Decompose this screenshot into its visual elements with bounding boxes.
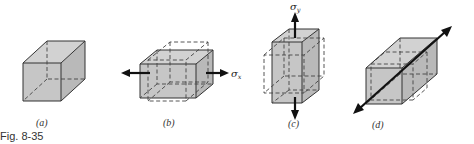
- figure-caption: Fig. 8-35: [0, 130, 43, 142]
- sigma-y-label: σy: [290, 1, 301, 14]
- panel-d-cube: [353, 26, 452, 114]
- panel-b-cube: σx: [121, 42, 242, 101]
- panel-c-label: (c): [288, 118, 300, 130]
- panel-d-label: (d): [372, 119, 384, 131]
- panel-b-label: (b): [163, 117, 175, 129]
- panel-c-cube: σy: [264, 1, 324, 120]
- figure-canvas: σx σy (a): [0, 0, 474, 144]
- sigma-x-label: σx: [231, 68, 242, 81]
- panel-a-label: (a): [36, 117, 48, 129]
- panel-a-cube: [23, 41, 85, 101]
